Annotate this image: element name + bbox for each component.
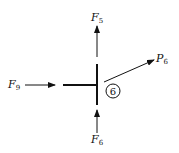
label-f5: F5 <box>91 12 103 25</box>
label-f9: F9 <box>8 79 20 92</box>
force-diagram: 6 <box>0 0 179 153</box>
force-arrow-p6 <box>104 60 154 82</box>
node-label: 6 <box>110 86 116 97</box>
label-f6: F6 <box>91 134 103 147</box>
label-p6: P6 <box>156 53 168 66</box>
